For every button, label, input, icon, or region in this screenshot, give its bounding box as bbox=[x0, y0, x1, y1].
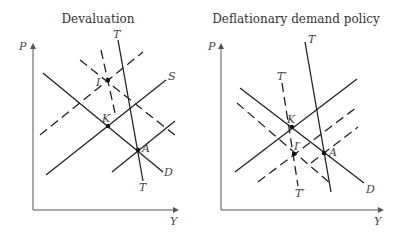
diagram-canvas: Devaluation P Y D S T T I K A Deflationa… bbox=[0, 0, 402, 235]
p-axis-label: P bbox=[207, 40, 216, 53]
point-a-label: A bbox=[328, 146, 337, 159]
panel-title: Devaluation bbox=[62, 12, 135, 26]
curve-s-label: S bbox=[168, 70, 176, 83]
point-a bbox=[136, 148, 140, 152]
curve-s bbox=[46, 80, 166, 175]
curve-d bbox=[240, 88, 364, 183]
curve-d-label: D bbox=[365, 183, 375, 196]
point-i bbox=[106, 78, 110, 82]
panel-deflationary-demand-policy: Deflationary demand policy P Y D T T′ T′… bbox=[207, 12, 383, 228]
y-axis-label: Y bbox=[374, 215, 383, 228]
panel-devaluation: Devaluation P Y D S T T I K A bbox=[18, 12, 179, 228]
point-k-label: K bbox=[101, 112, 111, 125]
p-axis-label: P bbox=[18, 40, 27, 53]
curve-d-label: D bbox=[163, 166, 173, 179]
panel-title: Deflationary demand policy bbox=[212, 12, 380, 26]
curve-t-label-top: T bbox=[113, 28, 122, 41]
curve-s-shifted-1 bbox=[258, 107, 357, 182]
point-a-label: A bbox=[141, 142, 150, 155]
curve-t-prime-label-bottom: T′ bbox=[295, 187, 305, 200]
curve-s bbox=[235, 79, 357, 172]
curve-t bbox=[118, 40, 143, 181]
curve-t-prime-label-top: T′ bbox=[277, 70, 287, 83]
point-a bbox=[322, 151, 326, 155]
curve-d-shifted bbox=[237, 103, 330, 183]
curve-t-label-bottom: T bbox=[139, 181, 148, 194]
point-k-label: K bbox=[286, 113, 296, 126]
y-axis-label: Y bbox=[170, 215, 179, 228]
curve-d-shifted bbox=[80, 60, 176, 136]
point-i-label: I bbox=[95, 76, 101, 89]
curve-t-label: T bbox=[308, 33, 317, 46]
point-i-prime-label: I′ bbox=[293, 140, 301, 153]
curve-t bbox=[305, 42, 331, 192]
